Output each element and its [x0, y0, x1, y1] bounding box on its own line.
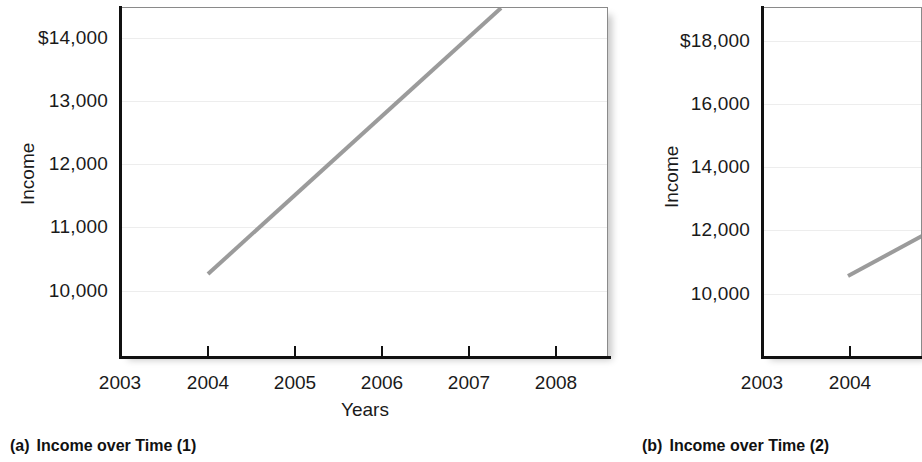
x-tick-label: 2005	[255, 373, 335, 392]
x-tick	[468, 346, 470, 356]
y-tick-label: 16,000	[640, 94, 750, 113]
y-tick-label: 10,000	[0, 281, 108, 300]
panel-caption-b: (b)Income over Time (2)	[642, 437, 829, 455]
x-tick	[555, 346, 557, 356]
chart-panel-a: $14,000 13,000 12,000 11,000 10,000 Inco…	[0, 0, 640, 462]
y-tick-label: $18,000	[640, 31, 750, 50]
x-axis-line	[761, 356, 922, 359]
y-axis-title: Income	[18, 143, 37, 205]
x-tick	[849, 346, 851, 356]
y-tick-label: 12,000	[640, 220, 750, 239]
chart-panel-b: $18,000 16,000 14,000 12,000 10,000 Inco…	[640, 0, 882, 462]
y-tick-label: $14,000	[0, 28, 108, 47]
x-tick-label: 2004	[168, 373, 248, 392]
x-tick-label: 2006	[342, 373, 422, 392]
x-axis-title: Years	[300, 400, 430, 419]
panel-caption-a: (a)Income over Time (1)	[10, 437, 196, 455]
panel-caption-text: Income over Time (1)	[37, 437, 197, 454]
y-tick-label: 14,000	[640, 157, 750, 176]
x-tick-label: 2007	[429, 373, 509, 392]
y-tick-label: 13,000	[0, 91, 108, 110]
x-axis-line	[119, 356, 611, 359]
plot-area-b	[762, 7, 922, 356]
x-tick-label: 2004	[810, 373, 890, 392]
x-tick-label: 2008	[516, 373, 596, 392]
x-tick-label: 2003	[722, 373, 802, 392]
x-tick	[207, 346, 209, 356]
y-axis-title: Income	[662, 146, 681, 208]
panel-caption-tag: (b)	[642, 437, 662, 454]
y-axis-line	[119, 6, 122, 359]
y-axis-line	[761, 6, 764, 359]
y-tick-label: 11,000	[0, 217, 108, 236]
series-line-income-b	[762, 8, 922, 356]
x-tick	[381, 346, 383, 356]
x-tick-label: 2003	[80, 373, 160, 392]
y-tick-label: 10,000	[640, 284, 750, 303]
panel-caption-text: Income over Time (2)	[669, 437, 829, 454]
plot-area-a	[120, 7, 608, 356]
panel-caption-tag: (a)	[10, 437, 30, 454]
x-tick	[294, 346, 296, 356]
series-line-income-a	[120, 8, 608, 356]
